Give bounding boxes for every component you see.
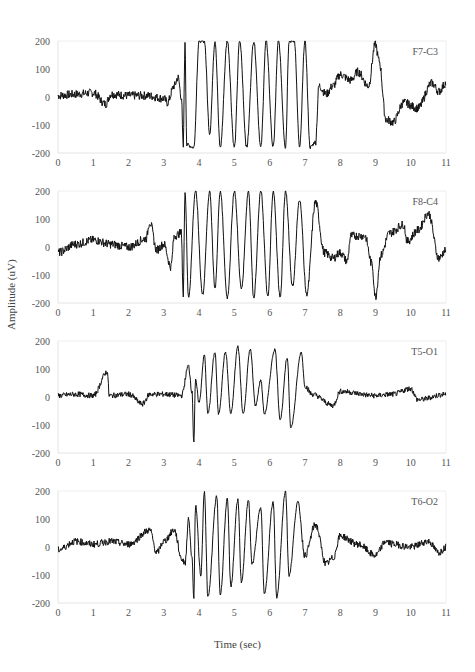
x-tick-label: 7	[302, 607, 307, 618]
x-tick-label: 10	[406, 607, 416, 618]
x-tick-label: 9	[373, 607, 378, 618]
x-tick-label: 8	[338, 157, 343, 168]
x-tick-label: 3	[161, 157, 166, 168]
x-tick-label: 6	[267, 307, 272, 318]
x-tick-label: 0	[56, 607, 61, 618]
y-tick-label: -200	[32, 148, 50, 159]
x-tick-label: 0	[56, 307, 61, 318]
y-axis-label: Amplitude (uV)	[5, 259, 17, 330]
panel-t6-o2: 2001000-100-20001234567891011T6-O2	[32, 486, 451, 618]
y-tick-label: -100	[32, 120, 50, 131]
panel-f8-c4: 2001000-100-20001234567891011F8-C4	[32, 186, 451, 318]
y-tick-label: 0	[45, 542, 50, 553]
x-tick-label: 2	[126, 157, 131, 168]
x-tick-label: 9	[373, 457, 378, 468]
eeg-trace	[58, 346, 446, 442]
eeg-trace	[58, 491, 446, 599]
x-tick-label: 5	[232, 307, 237, 318]
x-axis-label: Time (sec)	[0, 638, 475, 650]
x-tick-label: 6	[267, 157, 272, 168]
x-tick-label: 8	[338, 457, 343, 468]
x-tick-label: 6	[267, 457, 272, 468]
x-tick-label: 0	[56, 457, 61, 468]
x-tick-label: 10	[406, 157, 416, 168]
panel-f7-c3: 2001000-100-20001234567891011F7-C3	[32, 36, 451, 168]
x-tick-label: 2	[126, 607, 131, 618]
y-tick-label: 200	[35, 36, 50, 47]
x-tick-label: 2	[126, 457, 131, 468]
x-tick-label: 7	[302, 157, 307, 168]
channel-label: T5-O1	[411, 346, 438, 357]
x-tick-label: 5	[232, 157, 237, 168]
x-tick-label: 3	[161, 457, 166, 468]
y-tick-label: 0	[45, 92, 50, 103]
x-tick-label: 7	[302, 457, 307, 468]
x-tick-label: 8	[338, 607, 343, 618]
x-tick-label: 6	[267, 607, 272, 618]
eeg-plots: 2001000-100-20001234567891011F7-C3200100…	[0, 0, 475, 672]
x-tick-label: 7	[302, 307, 307, 318]
x-tick-label: 3	[161, 607, 166, 618]
x-tick-label: 5	[232, 457, 237, 468]
x-tick-label: 1	[91, 607, 96, 618]
x-tick-label: 10	[406, 307, 416, 318]
x-tick-label: 2	[126, 307, 131, 318]
y-tick-label: 100	[35, 214, 50, 225]
x-tick-label: 11	[441, 607, 451, 618]
eeg-figure: 2001000-100-20001234567891011F7-C3200100…	[0, 0, 475, 672]
x-tick-label: 9	[373, 307, 378, 318]
eeg-trace	[58, 191, 446, 300]
y-tick-label: 200	[35, 486, 50, 497]
x-tick-label: 5	[232, 607, 237, 618]
x-tick-label: 4	[197, 157, 202, 168]
x-tick-label: 4	[197, 307, 202, 318]
x-tick-label: 3	[161, 307, 166, 318]
y-tick-label: 0	[45, 392, 50, 403]
y-tick-label: -100	[32, 420, 50, 431]
y-tick-label: -100	[32, 270, 50, 281]
y-tick-label: -200	[32, 448, 50, 459]
channel-label: F8-C4	[412, 196, 438, 207]
y-tick-label: -100	[32, 570, 50, 581]
y-tick-label: 0	[45, 242, 50, 253]
x-tick-label: 1	[91, 307, 96, 318]
x-tick-label: 9	[373, 157, 378, 168]
y-tick-label: -200	[32, 298, 50, 309]
y-tick-label: -200	[32, 598, 50, 609]
x-tick-label: 4	[197, 607, 202, 618]
x-tick-label: 10	[406, 457, 416, 468]
x-tick-label: 11	[441, 457, 451, 468]
x-tick-label: 0	[56, 157, 61, 168]
y-tick-label: 100	[35, 64, 50, 75]
x-tick-label: 4	[197, 457, 202, 468]
channel-label: F7-C3	[412, 46, 438, 57]
panel-t5-o1: 2001000-100-20001234567891011T5-O1	[32, 336, 451, 468]
x-tick-label: 11	[441, 307, 451, 318]
y-tick-label: 100	[35, 514, 50, 525]
eeg-trace	[58, 41, 446, 149]
y-tick-label: 200	[35, 186, 50, 197]
y-tick-label: 100	[35, 364, 50, 375]
x-tick-label: 1	[91, 157, 96, 168]
x-tick-label: 1	[91, 457, 96, 468]
y-tick-label: 200	[35, 336, 50, 347]
channel-label: T6-O2	[411, 496, 438, 507]
x-tick-label: 8	[338, 307, 343, 318]
x-tick-label: 11	[441, 157, 451, 168]
